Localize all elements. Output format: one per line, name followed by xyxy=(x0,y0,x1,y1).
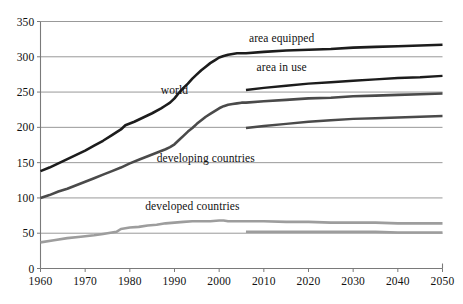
x-tick-label: 2000 xyxy=(207,275,231,287)
y-tick-label: 300 xyxy=(17,51,35,63)
x-tick-label: 2050 xyxy=(431,275,455,287)
y-tick-label: 350 xyxy=(17,16,35,28)
series-annotation: developing countries xyxy=(157,152,255,164)
y-tick-label: 250 xyxy=(17,86,35,98)
irrigation-area-line-chart: 050100150200250300350 196019701980199020… xyxy=(0,0,463,304)
series-line-2 xyxy=(41,93,443,197)
series-line-5 xyxy=(246,232,443,233)
series-line-3 xyxy=(246,116,443,128)
x-tick-label: 2040 xyxy=(386,275,410,287)
x-tick-label: 2020 xyxy=(297,275,321,287)
series-annotation: area equipped xyxy=(249,32,314,44)
series-annotation: developed countries xyxy=(145,200,239,212)
x-tick-label: 2010 xyxy=(252,275,276,287)
y-tick-label: 50 xyxy=(23,227,35,239)
series-annotation: area in use xyxy=(257,61,307,73)
y-tick-label: 200 xyxy=(17,121,35,133)
x-tick-label: 1970 xyxy=(73,275,97,287)
x-tick-label: 1960 xyxy=(29,275,53,287)
y-tick-label: 0 xyxy=(29,263,35,275)
x-tick-label: 1980 xyxy=(118,275,142,287)
x-tick-label: 1990 xyxy=(163,275,187,287)
series-annotation: world xyxy=(161,84,188,96)
x-tick-label: 2030 xyxy=(341,275,365,287)
series-line-1 xyxy=(246,76,443,90)
data-series xyxy=(41,45,443,243)
y-tick-label: 100 xyxy=(17,192,35,204)
y-tick-label: 150 xyxy=(17,157,35,169)
